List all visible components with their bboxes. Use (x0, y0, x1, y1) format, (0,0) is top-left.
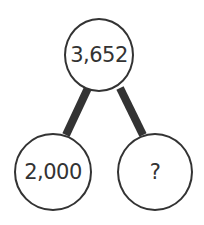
connector-left (66, 88, 88, 135)
part-circle-left: 2,000 (14, 133, 92, 211)
part-value-left: 2,000 (24, 160, 82, 184)
part-circle-right: ? (117, 133, 193, 211)
connector-right (120, 88, 143, 135)
whole-value: 3,652 (70, 43, 128, 67)
part-value-right: ? (150, 160, 161, 184)
whole-circle: 3,652 (64, 18, 134, 92)
